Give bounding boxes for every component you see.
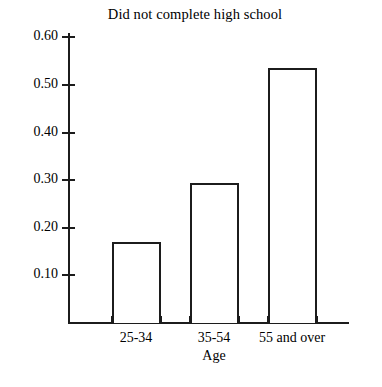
y-tick-label-wrap: 0.60 xyxy=(10,29,58,43)
y-tick-label-wrap: 0.30 xyxy=(10,172,58,186)
y-tick-label-wrap: 0.20 xyxy=(10,220,58,234)
y-tick-label: 0.20 xyxy=(12,220,58,234)
y-tick-label: 0.10 xyxy=(12,267,58,281)
y-tick-mark xyxy=(62,274,75,276)
x-tick-label: 25-34 xyxy=(120,330,153,346)
y-tick-mark xyxy=(62,132,75,134)
y-tick-label-wrap: 0.10 xyxy=(10,267,58,281)
bar-chart: Did not complete high school 0.100.200.3… xyxy=(0,0,382,387)
x-tick-label: 35-54 xyxy=(198,330,231,346)
bar xyxy=(112,242,161,323)
y-tick-label: 0.60 xyxy=(12,29,58,43)
y-tick-label-wrap: 0.40 xyxy=(10,125,58,139)
y-tick-mark xyxy=(62,36,75,38)
bar xyxy=(268,68,317,323)
y-tick-mark xyxy=(62,84,75,86)
bar xyxy=(190,183,239,323)
x-axis-title: Age xyxy=(202,348,225,364)
y-tick-mark xyxy=(62,179,75,181)
y-tick-label-wrap: 0.50 xyxy=(10,77,58,91)
y-tick-label: 0.40 xyxy=(12,125,58,139)
x-tick-label: 55 and over xyxy=(259,330,325,346)
y-tick-mark xyxy=(62,227,75,229)
y-tick-label: 0.30 xyxy=(12,172,58,186)
y-tick-label: 0.50 xyxy=(12,77,58,91)
chart-title: Did not complete high school xyxy=(0,6,382,23)
